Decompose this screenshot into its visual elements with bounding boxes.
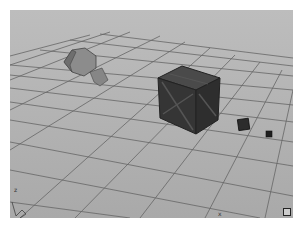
3d-viewport[interactable]: z x — [10, 10, 293, 218]
crate-small — [237, 118, 249, 130]
axis-label-z: z — [14, 186, 17, 193]
viewport-resize-icon[interactable] — [283, 208, 291, 216]
crate-tiny — [266, 131, 272, 137]
axis-label-x: x — [218, 210, 222, 217]
scene-canvas[interactable] — [10, 10, 293, 218]
